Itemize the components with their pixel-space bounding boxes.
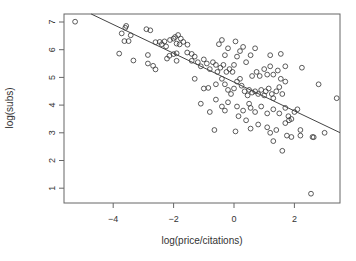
data-point [271, 139, 276, 144]
plot-frame [64, 14, 340, 203]
data-point [177, 42, 182, 47]
data-point [192, 76, 197, 81]
data-point [271, 107, 276, 112]
data-point [238, 76, 243, 81]
data-point [241, 108, 246, 113]
y-tick-label: 6 [47, 47, 57, 52]
data-point [316, 82, 321, 87]
y-tick-label: 5 [47, 75, 57, 80]
data-point [212, 128, 217, 133]
data-point [230, 70, 235, 75]
data-point [265, 111, 270, 116]
data-point [73, 19, 78, 24]
data-point [268, 130, 273, 135]
data-point [265, 72, 270, 77]
data-point [275, 68, 280, 73]
data-points [73, 19, 339, 196]
y-tick-label: 2 [47, 158, 57, 163]
x-tick-label: 2 [292, 214, 297, 224]
data-point [201, 86, 206, 91]
scatter-chart: −4−202 1234567 log(price/citations) log(… [0, 0, 356, 261]
data-point [224, 70, 229, 75]
data-point [221, 63, 226, 68]
data-point [232, 63, 237, 68]
data-point [211, 60, 216, 65]
data-point [189, 52, 194, 57]
data-point [153, 67, 158, 72]
x-tick-label: −4 [108, 214, 118, 224]
y-tick-label: 3 [47, 130, 57, 135]
data-point [248, 126, 253, 131]
data-point [185, 42, 190, 47]
data-point [259, 104, 264, 109]
data-point [220, 104, 225, 109]
data-point [274, 128, 279, 133]
data-point [174, 58, 179, 63]
data-point [162, 39, 167, 44]
data-point [268, 53, 273, 58]
data-point [119, 31, 124, 36]
data-point [198, 101, 203, 106]
data-point [131, 58, 136, 63]
data-point [236, 114, 241, 119]
data-point [250, 74, 255, 79]
data-point [300, 65, 305, 70]
y-axis: 1234567 [47, 19, 64, 190]
data-point [218, 65, 223, 70]
data-point [309, 191, 314, 196]
data-point [285, 133, 290, 138]
data-point [274, 89, 279, 94]
y-tick-label: 4 [47, 103, 57, 108]
data-point [256, 122, 261, 127]
data-point [207, 110, 212, 115]
data-point [278, 52, 283, 57]
data-point [289, 135, 294, 140]
data-point [280, 148, 285, 153]
data-point [235, 104, 240, 109]
data-point [233, 39, 238, 44]
data-point [214, 82, 219, 87]
regression-line [91, 14, 340, 133]
data-point [174, 41, 179, 46]
data-point [226, 100, 231, 105]
data-point [334, 96, 339, 101]
data-point [117, 51, 122, 56]
data-point [185, 50, 190, 55]
data-point [265, 125, 270, 130]
data-point [254, 70, 259, 75]
data-point [206, 86, 211, 91]
data-point [295, 107, 300, 112]
data-point [232, 86, 237, 91]
data-point [268, 64, 273, 69]
data-point [266, 86, 271, 91]
data-point [227, 67, 232, 72]
y-tick-label: 7 [47, 19, 57, 24]
data-point [271, 72, 276, 77]
x-tick-label: −2 [168, 214, 178, 224]
data-point [283, 64, 288, 69]
data-point [223, 82, 228, 87]
data-point [263, 89, 268, 94]
data-point [220, 38, 225, 43]
data-point [233, 129, 238, 134]
data-point [298, 128, 303, 133]
x-axis: −4−202 [108, 203, 297, 224]
data-point [226, 46, 231, 51]
data-point [146, 61, 151, 66]
data-point [277, 111, 282, 116]
data-point [245, 93, 250, 98]
data-point [280, 92, 285, 97]
y-tick-label: 1 [47, 186, 57, 191]
data-point [214, 97, 219, 102]
x-tick-label: 0 [231, 214, 236, 224]
data-point [223, 53, 228, 58]
data-point [238, 49, 243, 54]
data-point [241, 45, 246, 50]
data-point [278, 76, 283, 81]
data-point [322, 130, 327, 135]
data-point [229, 92, 234, 97]
x-axis-label: log(price/citations) [161, 235, 242, 246]
data-point [248, 106, 253, 111]
data-point [244, 60, 249, 65]
data-point [164, 44, 169, 49]
